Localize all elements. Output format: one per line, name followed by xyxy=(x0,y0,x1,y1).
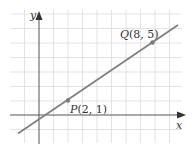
y-axis-label: y xyxy=(29,9,37,22)
x-axis-arrow-icon xyxy=(177,112,186,119)
point-p-label: P(2, 1) xyxy=(69,103,107,116)
point-p-coords: (2, 1) xyxy=(77,103,107,116)
point-q-label: Q(8, 5) xyxy=(120,28,159,41)
point-q-name: Q xyxy=(120,28,129,41)
coordinate-plane: x y P(2, 1) Q(8, 5) xyxy=(0,0,194,150)
y-axis-arrow-icon xyxy=(36,11,43,20)
point-q-coords: (8, 5) xyxy=(129,28,159,41)
x-axis-label: x xyxy=(176,119,183,132)
